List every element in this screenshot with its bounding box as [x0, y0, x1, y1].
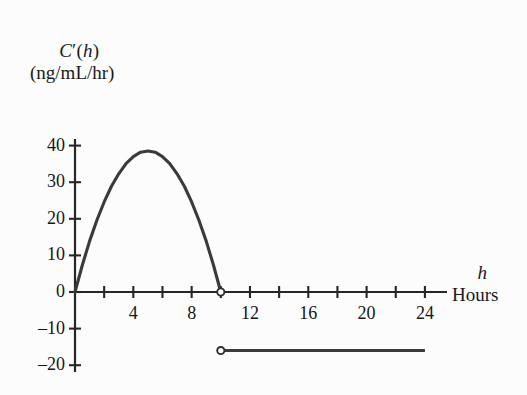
- x-axis-tick-label: 20: [344, 303, 390, 324]
- x-axis-title-units: Hours: [452, 284, 498, 306]
- y-axis-title-units: (ng/mL/hr): [30, 62, 114, 84]
- x-axis-tick-label: 16: [285, 303, 331, 324]
- y-axis-tick-label: –20: [9, 354, 65, 375]
- y-axis-tick-label: 30: [9, 171, 65, 192]
- y-axis-tick-label: 20: [9, 208, 65, 229]
- x-axis-tick-label: 12: [227, 303, 273, 324]
- x-axis-title: h Hours: [466, 262, 498, 306]
- open-circle-segment-start: [217, 347, 224, 354]
- x-axis-tick-label: 24: [402, 303, 448, 324]
- y-axis-tick-label: –10: [9, 318, 65, 339]
- x-axis-tick-label: 8: [169, 303, 215, 324]
- x-axis-title-symbol: h: [466, 262, 498, 284]
- y-axis-tick-label: 10: [9, 244, 65, 265]
- chart-figure: C′(h) (ng/mL/hr) h Hours 403020100–10–20…: [0, 0, 527, 395]
- open-circle-endpoint-zero: [217, 288, 224, 295]
- y-axis-tick-label: 40: [9, 135, 65, 156]
- y-axis-tick-label: 0: [9, 281, 65, 302]
- x-axis-tick-label: 4: [110, 303, 156, 324]
- parabolic-arc-curve: [75, 151, 221, 292]
- y-axis-title: C′(h) (ng/mL/hr): [44, 40, 114, 84]
- y-axis-title-symbol: C′(h): [44, 40, 114, 62]
